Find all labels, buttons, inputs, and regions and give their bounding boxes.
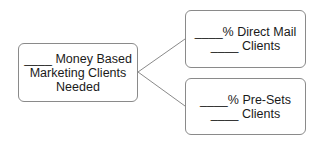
connector-bottom — [138, 72, 185, 106]
root-line-1: ____ Money Based — [24, 52, 132, 66]
child-node-pre-sets: ____% Pre-Sets ____ Clients — [185, 78, 306, 135]
pre-sets-line-1: ____% Pre-Sets — [200, 93, 291, 107]
root-line-2: Marketing Clients — [30, 66, 127, 80]
root-node: ____ Money Based Marketing Clients Neede… — [18, 43, 138, 102]
direct-mail-line-1: ____% Direct Mail — [195, 25, 296, 39]
child-node-direct-mail: ____% Direct Mail ____ Clients — [185, 10, 306, 68]
root-line-3: Needed — [56, 80, 100, 94]
direct-mail-line-2: ____ Clients — [211, 39, 281, 53]
connector-top — [138, 39, 185, 72]
pre-sets-line-2: ____ Clients — [211, 107, 281, 121]
